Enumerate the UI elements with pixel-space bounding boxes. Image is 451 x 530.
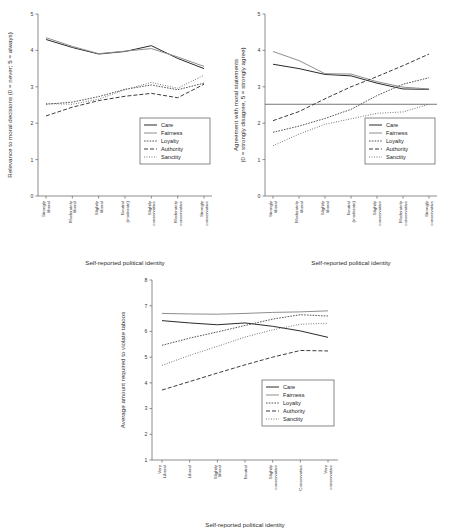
x-tick-label: conservative bbox=[151, 200, 156, 225]
legend-label-fairness: Fairness bbox=[161, 130, 183, 136]
y-tick-label: 5 bbox=[145, 354, 148, 360]
x-axis-title: Self-reported political identity bbox=[85, 259, 165, 266]
legend-label-sanctity: Sanctity bbox=[161, 154, 181, 160]
y-tick-label: 6 bbox=[145, 328, 148, 334]
x-tick-label: Neutral bbox=[243, 465, 248, 479]
x-tick-label: conservative bbox=[377, 200, 382, 225]
legend-label-care: Care bbox=[283, 384, 295, 390]
x-tick-label: conservative bbox=[273, 464, 278, 489]
x-tick-label: conservative bbox=[204, 200, 209, 225]
series-line-authority bbox=[46, 84, 204, 116]
y-tick-label: 2 bbox=[145, 431, 148, 437]
x-tick-label: Liberal bbox=[187, 465, 192, 478]
series-line-sanctity bbox=[162, 323, 328, 365]
legend-label-authority: Authority bbox=[386, 146, 408, 152]
y-tick-label: 5 bbox=[31, 11, 34, 17]
x-tick-label: conservative bbox=[328, 464, 333, 489]
series-line-fairness bbox=[46, 38, 204, 67]
panel-agreement: 012345StronglyliberalModeratelyliberalSl… bbox=[225, 0, 451, 268]
y-tick-label: 1 bbox=[145, 457, 148, 463]
legend-label-authority: Authority bbox=[283, 408, 305, 414]
y-tick-label: 4 bbox=[145, 380, 148, 386]
panel-relevance: 012345StronglyliberalModeratelyliberalSl… bbox=[0, 0, 226, 268]
legend-label-care: Care bbox=[161, 122, 173, 128]
legend-label-sanctity: Sanctity bbox=[283, 416, 303, 422]
x-tick-label: conservative bbox=[429, 200, 434, 225]
y-tick-label: 4 bbox=[31, 47, 34, 53]
x-tick-label: (moderate) bbox=[351, 200, 356, 222]
series-line-fairness bbox=[273, 51, 429, 88]
legend-label-sanctity: Sanctity bbox=[386, 154, 406, 160]
y-tick-label: 4 bbox=[258, 47, 261, 53]
y-tick-label: 0 bbox=[31, 193, 34, 199]
legend-label-loyalty: Loyalty bbox=[283, 400, 301, 406]
y-tick-label: 7 bbox=[145, 303, 148, 309]
x-tick-label: liberal bbox=[72, 201, 77, 213]
y-axis-title: Agreement with moral statements(0 = stro… bbox=[232, 48, 246, 163]
x-tick-label: liberal bbox=[46, 201, 51, 213]
legend-label-fairness: Fairness bbox=[386, 130, 408, 136]
y-axis-title: Relevance to moral decisions (0 = never;… bbox=[6, 32, 13, 177]
series-line-care bbox=[162, 321, 328, 338]
panel-relevance-svg: 012345StronglyliberalModeratelyliberalSl… bbox=[0, 0, 226, 268]
y-tick-label: 3 bbox=[31, 84, 34, 90]
y-tick-label: 3 bbox=[145, 405, 148, 411]
y-tick-label: 5 bbox=[258, 11, 261, 17]
x-tick-label: conservative bbox=[403, 200, 408, 225]
y-tick-label: 3 bbox=[258, 84, 261, 90]
series-line-fairness bbox=[162, 311, 328, 314]
y-axis-title: Average amount required to violate taboo… bbox=[119, 312, 126, 429]
series-line-loyalty bbox=[46, 83, 204, 104]
y-tick-label: 1 bbox=[31, 157, 34, 163]
x-tick-label: liberal bbox=[325, 201, 330, 213]
series-line-care bbox=[46, 39, 204, 68]
x-tick-label: liberal bbox=[99, 201, 104, 213]
x-tick-label: liberal bbox=[217, 465, 222, 477]
x-tick-label: Conservative bbox=[298, 464, 303, 490]
series-line-care bbox=[273, 64, 429, 89]
x-tick-label: liberal bbox=[273, 201, 278, 213]
legend-label-fairness: Fairness bbox=[283, 392, 305, 398]
panel-taboos-svg: 12345678VeryLiberalLiberalSlightlylibera… bbox=[112, 268, 352, 530]
panel-agreement-svg: 012345StronglyliberalModeratelyliberalSl… bbox=[225, 0, 451, 268]
y-tick-label: 2 bbox=[31, 120, 34, 126]
legend-label-loyalty: Loyalty bbox=[386, 138, 404, 144]
x-tick-label: conservative bbox=[178, 200, 183, 225]
legend-label-loyalty: Loyalty bbox=[161, 138, 179, 144]
y-tick-label: 2 bbox=[258, 120, 261, 126]
y-tick-label: 0 bbox=[258, 193, 261, 199]
y-tick-label: 1 bbox=[258, 157, 261, 163]
legend-label-authority: Authority bbox=[161, 146, 183, 152]
y-tick-label: 8 bbox=[145, 277, 148, 283]
legend-label-care: Care bbox=[386, 122, 398, 128]
x-axis-title: Self-reported political identity bbox=[205, 521, 285, 528]
series-line-loyalty bbox=[162, 315, 328, 346]
x-tick-label: (moderate) bbox=[125, 200, 130, 222]
panel-taboos: 12345678VeryLiberalLiberalSlightlylibera… bbox=[112, 268, 352, 530]
series-line-sanctity bbox=[46, 75, 204, 104]
x-axis-title: Self-reported political identity bbox=[311, 259, 391, 266]
x-tick-label: Liberal bbox=[162, 465, 167, 478]
x-tick-label: liberal bbox=[299, 201, 304, 213]
